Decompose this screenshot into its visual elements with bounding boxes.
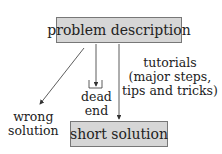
wrong-solution-label: wrong solution — [8, 110, 59, 138]
label-line: tutorials — [122, 56, 218, 70]
problem-description-box: problem description — [56, 17, 182, 43]
label-line: solution — [8, 124, 59, 138]
problem-description-label: problem description — [47, 22, 191, 38]
label-line: dead — [81, 90, 112, 104]
short-solution-box: short solution — [70, 121, 168, 147]
tutorials-label: tutorials (major steps, tips and tricks) — [122, 56, 218, 98]
label-line: wrong — [8, 110, 59, 124]
dead-end-cup-icon — [89, 80, 102, 88]
arrow-wrong-solution — [40, 48, 84, 104]
label-line: (major steps, — [122, 70, 218, 84]
short-solution-label: short solution — [70, 126, 168, 142]
label-line: end — [81, 104, 112, 118]
label-line: tips and tricks) — [122, 84, 218, 98]
dead-end-label: dead end — [81, 90, 112, 118]
